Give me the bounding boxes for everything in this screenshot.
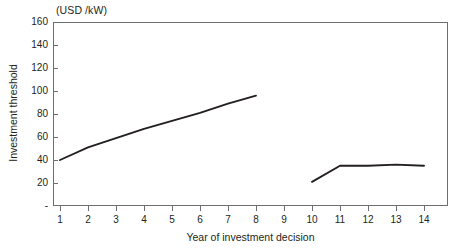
x-axis-tick-label: 1 [50, 214, 70, 225]
y-axis-tick-label: 160 [24, 17, 48, 27]
x-axis-tick-label: 12 [358, 214, 378, 225]
y-axis-tick-label: 60 [24, 132, 48, 142]
y-axis-unit-caption: (USD /kW) [56, 4, 107, 16]
y-axis-tick-label-group: -20406080100120140160 [20, 0, 48, 248]
x-axis-tick-label: 7 [218, 214, 238, 225]
y-axis-tick-mark [53, 114, 58, 115]
y-axis-tick-mark [53, 45, 58, 46]
x-axis-tick-label: 5 [162, 214, 182, 225]
chart-container: (USD /kW) Investment threshold -20406080… [0, 0, 459, 248]
y-axis-tick-mark [53, 183, 58, 184]
x-axis-tick-label: 14 [414, 214, 434, 225]
x-axis-title: Year of investment decision [53, 231, 448, 243]
x-axis-tick-mark [396, 206, 397, 211]
y-axis-tick-mark [53, 137, 58, 138]
y-axis-tick-mark [53, 68, 58, 69]
x-axis-tick-label: 13 [386, 214, 406, 225]
x-axis-tick-label: 2 [78, 214, 98, 225]
y-axis-tick-label: - [24, 201, 48, 211]
x-axis-tick-mark [340, 206, 341, 211]
x-axis-tick-mark [172, 206, 173, 211]
x-axis-tick-mark [144, 206, 145, 211]
x-axis-tick-mark [60, 206, 61, 211]
x-axis-tick-label: 10 [302, 214, 322, 225]
x-axis-tick-mark [200, 206, 201, 211]
y-axis-tick-label: 120 [24, 63, 48, 73]
y-axis-tick-label: 100 [24, 86, 48, 96]
y-axis-tick-label: 40 [24, 155, 48, 165]
y-axis-tick-label: 20 [24, 178, 48, 188]
x-axis-tick-mark [256, 206, 257, 211]
y-axis-tick-label: 80 [24, 109, 48, 119]
y-axis-title: Investment threshold [7, 53, 19, 173]
x-axis-tick-mark [424, 206, 425, 211]
x-axis-tick-label: 3 [106, 214, 126, 225]
x-axis-tick-mark [284, 206, 285, 211]
x-axis-tick-label: 11 [330, 214, 350, 225]
y-axis-tick-label: 140 [24, 40, 48, 50]
y-axis-tick-mark [53, 160, 58, 161]
x-axis-tick-mark [88, 206, 89, 211]
x-axis-tick-label: 8 [246, 214, 266, 225]
x-axis-tick-mark [228, 206, 229, 211]
x-axis-tick-label: 9 [274, 214, 294, 225]
y-axis-tick-mark [53, 91, 58, 92]
x-axis-tick-mark [368, 206, 369, 211]
x-axis-tick-mark [312, 206, 313, 211]
x-axis-tick-label: 4 [134, 214, 154, 225]
plot-area [53, 22, 448, 206]
x-axis-tick-label: 6 [190, 214, 210, 225]
x-axis-tick-mark [116, 206, 117, 211]
